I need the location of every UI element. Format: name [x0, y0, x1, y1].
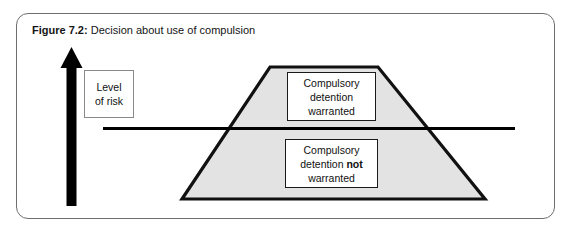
level-of-risk-arrow [61, 47, 83, 206]
level-of-risk-line-2: of risk [95, 94, 123, 108]
lower-box-line-2: detention not [300, 157, 362, 171]
lower-box-line-1: Compulsory [300, 143, 362, 157]
lower-box-line-3: warranted [300, 171, 362, 185]
upper-box-line-1: Compulsory [303, 76, 359, 90]
upper-box-line-3: warranted [303, 104, 359, 118]
lower-box-line-2-prefix: detention [300, 158, 346, 170]
arrow-head-icon [61, 47, 83, 68]
lower-box-emphasis-not: not [346, 158, 362, 170]
level-of-risk-line-1: Level [95, 80, 123, 94]
compulsory-detention-not-warranted-box: Compulsory detention not warranted [285, 139, 378, 188]
figure-container: Figure 7.2: Decision about use of compul… [0, 0, 571, 233]
upper-box-line-2: detention [303, 90, 359, 104]
compulsory-detention-warranted-box: Compulsory detention warranted [287, 72, 376, 121]
arrow-shaft [67, 60, 77, 206]
level-of-risk-label-box: Level of risk [84, 70, 134, 118]
